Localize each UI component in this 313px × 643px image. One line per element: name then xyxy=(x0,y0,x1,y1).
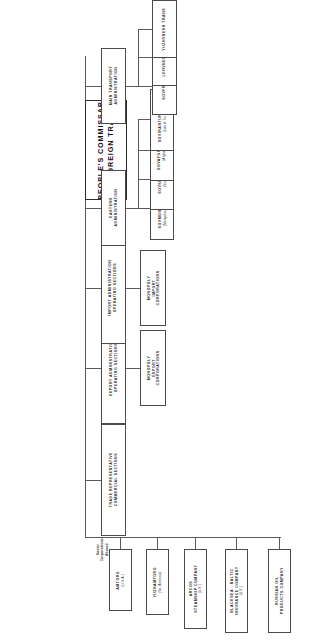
node-eastern-admin-label: EASTERNADMINISTRATION xyxy=(109,189,118,227)
yuzhamtorg-region: (So. America) xyxy=(158,567,162,598)
connector-eastern-bus xyxy=(138,119,139,209)
eastern-admin-line2: ADMINISTRATION xyxy=(114,189,118,227)
arcos-region: (U.K.) xyxy=(198,565,202,613)
soviet-corps-note-inner: SovietCorporationsAbroad xyxy=(96,538,109,561)
connector-bus-to-blacksea xyxy=(236,537,237,549)
connector-eastern-to-sovirantorg xyxy=(138,119,150,120)
node-russian-oil-products-company[interactable]: RUSSIAN OILPRODUCTS COMPANY xyxy=(268,549,291,633)
node-monopoly-import-corporations[interactable]: MONOPOLYIMPORTCORPORATIONS xyxy=(140,250,166,326)
monopoly-import-line3: CORPORATIONS xyxy=(155,271,159,306)
node-amtorg-label: AMTORG(U.S.A.) xyxy=(116,571,125,590)
connector-eastern-to-sovsintorg xyxy=(138,179,150,180)
amtorg-region: (U.S.A.) xyxy=(121,571,125,590)
transport-admin-line2: ADMINISTRATION xyxy=(114,67,118,105)
node-monopoly-import-label: MONOPOLYIMPORTCORPORATIONS xyxy=(146,271,160,306)
node-trade-rep-label: TRADE REPRESENTATIVECOMMERCIAL SECTIONS xyxy=(109,452,118,507)
yuzhamtorg-name: YUZHAMTORG xyxy=(153,567,157,598)
connector-import-to-monopoly xyxy=(126,288,140,289)
node-trade-representative-sections[interactable]: TRADE REPRESENTATIVECOMMERCIAL SECTIONS xyxy=(101,424,126,536)
connector-spine-to-export-admin xyxy=(85,368,101,369)
connector-bus-to-yuzhamtorg xyxy=(157,537,158,549)
connector-transport-to-lenvneshtrans xyxy=(138,57,152,58)
node-main-transport-administration[interactable]: MAIN TRANSPORTADMINISTRATION xyxy=(101,48,126,124)
node-eastern-administration[interactable]: EASTERNADMINISTRATION xyxy=(101,170,126,246)
trade-rep-line1: TRADE REPRESENTATIVE xyxy=(109,452,113,507)
monopoly-export-line3: CORPORATIONS xyxy=(155,351,159,386)
monopoly-import-line2: IMPORT xyxy=(151,280,155,297)
monopoly-export-line1: MONOPOLY xyxy=(146,356,150,381)
node-yuzhamtorg[interactable]: YUZHAMTORG(So. America) xyxy=(146,549,169,615)
node-import-admin-label: IMPORT ADMINISTRATIONOPERATING SECTIONS xyxy=(109,260,118,316)
connector-soviet-corps-bus xyxy=(85,537,281,538)
node-russian-oil-label: RUSSIAN OILPRODUCTS COMPANY xyxy=(275,567,284,614)
transport-admin-line1: MAIN TRANSPORT xyxy=(109,66,113,105)
node-amtorg[interactable]: AMTORG(U.S.A.) xyxy=(109,549,132,611)
connector-bus-to-arcos xyxy=(195,537,196,549)
amtorg-name: AMTORG xyxy=(116,571,120,590)
connector-transport-to-sovfracht xyxy=(138,86,152,87)
connector-transport-stem xyxy=(126,86,138,87)
connector-spine-to-eastern-admin xyxy=(85,208,101,209)
blacksea-region: (U.K.) xyxy=(239,567,243,616)
node-blacksea-label: BLACKSEA - BALTICINSURANCE COMPANY(U.K.) xyxy=(230,567,243,616)
org-chart-canvas: PEOPLE'S COMMISSAROF FOREIGN TRADE TRADE… xyxy=(0,0,313,643)
export-admin-line2: OPERATING SECTIONS xyxy=(114,343,118,392)
connector-spine-to-transport-admin xyxy=(85,86,101,87)
monopoly-export-line2: EXPORT xyxy=(151,359,155,377)
node-arcos-steamship-company[interactable]: ARCOSSTEAMSHIP COMPANY(U.K.) xyxy=(184,549,207,629)
connector-transport-to-yuzhvneshtrans xyxy=(138,29,152,30)
trade-rep-line2: COMMERCIAL SECTIONS xyxy=(114,453,118,506)
connector-bus-to-russian-oil xyxy=(279,537,280,549)
connector-export-to-monopoly xyxy=(126,368,140,369)
connector-eastern-stem xyxy=(126,208,138,209)
node-arcos-label: ARCOSSTEAMSHIP COMPANY(U.K.) xyxy=(189,565,202,613)
node-monopoly-export-label: MONOPOLYEXPORTCORPORATIONS xyxy=(146,351,160,386)
export-admin-line1: EXPORT ADMINISTRATION xyxy=(109,340,113,397)
connector-eastern-to-sovmongoltorg xyxy=(138,208,150,209)
russian-oil-line2: PRODUCTS COMPANY xyxy=(280,567,284,614)
connector-eastern-to-sovafghantorg xyxy=(138,150,150,151)
node-transport-admin-label: MAIN TRANSPORTADMINISTRATION xyxy=(109,66,118,105)
node-export-admin-label: EXPORT ADMINISTRATIONOPERATING SECTIONS xyxy=(109,340,118,397)
node-monopoly-export-corporations[interactable]: MONOPOLYEXPORTCORPORATIONS xyxy=(140,330,166,406)
node-import-administration[interactable]: IMPORT ADMINISTRATIONOPERATING SECTIONS xyxy=(101,232,126,344)
node-yuzhvneshtrans[interactable]: YUZHVNESH TRANS xyxy=(152,0,177,58)
import-admin-line2: OPERATING SECTIONS xyxy=(114,263,118,312)
node-blacksea-baltic-insurance-company[interactable]: BLACKSEA - BALTICINSURANCE COMPANY(U.K.) xyxy=(225,549,248,633)
eastern-admin-line1: EASTERN xyxy=(109,198,113,219)
connector-spine-to-import-admin xyxy=(85,288,101,289)
monopoly-import-line1: MONOPOLY xyxy=(146,276,150,301)
connector-spine-to-trade-rep xyxy=(85,480,101,481)
blacksea-line1: BLACKSEA - BALTIC xyxy=(230,569,234,613)
node-yuzhvneshtrans-label: YUZHVNESH TRANS xyxy=(162,8,167,51)
connector-bus-to-amtorg xyxy=(120,537,121,549)
russian-oil-line1: RUSSIAN OIL xyxy=(275,577,279,606)
blacksea-line2: INSURANCE COMPANY xyxy=(234,567,238,616)
node-yuzhamtorg-label: YUZHAMTORG(So. America) xyxy=(153,567,162,598)
